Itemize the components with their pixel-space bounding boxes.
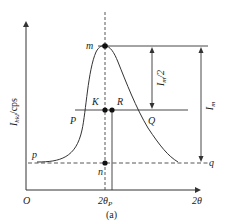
y-axis-label: Ihkl/cps xyxy=(8,98,21,127)
label-m: m xyxy=(86,40,93,51)
label-k: K xyxy=(91,96,100,107)
figure-caption: (a) xyxy=(106,209,117,221)
point-m-dot xyxy=(102,43,108,49)
label-q-lower: q xyxy=(209,157,214,168)
point-n-dot xyxy=(102,160,107,165)
label-r: R xyxy=(116,96,123,107)
xrd-peak-diagram: m K R P Q p q n O 2θP 2θ (a) Ihkl/cps Im… xyxy=(0,0,242,223)
label-p-lower: p xyxy=(31,149,37,160)
label-p-upper: P xyxy=(69,115,76,126)
x-axis-label: 2θ xyxy=(192,195,202,206)
point-k-dot xyxy=(102,107,107,112)
max-intensity-label: Im xyxy=(204,102,217,111)
peak-position-label: 2θP xyxy=(98,195,113,208)
diffraction-peak-curve xyxy=(37,46,178,162)
origin-label: O xyxy=(23,195,30,206)
point-r-dot xyxy=(109,107,114,112)
half-max-label: Im/2 xyxy=(155,70,168,87)
label-q-upper: Q xyxy=(148,115,156,126)
label-n: n xyxy=(98,166,103,177)
